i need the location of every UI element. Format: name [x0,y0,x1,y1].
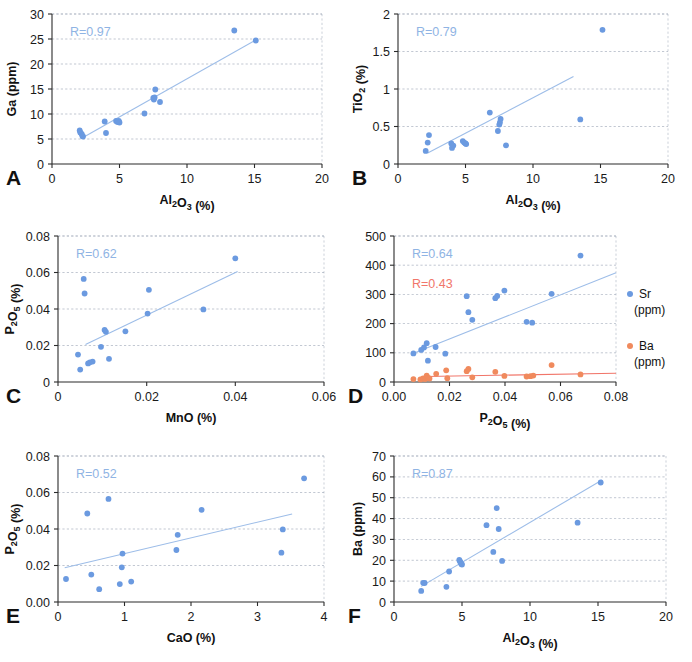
y-tick-label: 5 [37,133,44,147]
data-point [425,358,431,364]
x-tick-label: 0.08 [604,390,628,404]
data-point [575,520,581,526]
data-point [459,562,465,568]
y-tick-label: 40 [372,512,386,526]
y-axis-title: Ga (ppm) [5,62,19,117]
y-tick-label: 50 [372,491,386,505]
x-tick-label: 5 [459,610,466,624]
data-point [90,359,96,365]
x-tick-label: 15 [248,172,262,186]
y-tick-label: 200 [365,317,386,331]
legend-label: Sr [639,287,651,301]
data-point [77,367,83,373]
y-tick-label: 1.5 [373,45,390,59]
x-tick-label: 0 [395,172,402,186]
x-tick-label: 0.06 [312,390,336,404]
panel-e-plot: 0.000.020.040.060.0801234R=0.52CaO (%)P2… [0,440,346,662]
data-point [463,141,469,147]
y-axis-title: P2O5 (%) [3,283,23,334]
y-tick-label: 0.04 [26,523,50,537]
data-point [446,569,452,575]
data-point [549,362,555,368]
y-tick-label: 30 [372,533,386,547]
data-point [530,373,536,379]
data-point [81,276,87,282]
y-tick-label: 0.08 [26,450,50,464]
correlation-label: R=0.62 [76,247,117,261]
y-tick-label: 500 [365,230,386,244]
y-tick-label: 0 [383,158,390,172]
data-point [499,558,505,564]
y-axis-title: Ba (ppm) [351,502,365,556]
y-tick-label: 0.02 [26,339,50,353]
x-tick-label: 0.00 [382,390,406,404]
y-tick-label: 0 [37,158,44,172]
panel-letter-d: D [348,384,363,408]
x-tick-label: 15 [591,610,605,624]
x-axis-title: Al2O3 (%) [502,631,557,651]
data-point [466,309,472,315]
y-tick-label: 0.00 [26,596,50,610]
data-point [495,128,501,134]
panel-b-plot: 00.511.5205101520R=0.79Al2O3 (%)TiO2 (%) [346,0,692,220]
correlation-label: R=0.79 [416,25,457,39]
correlation-label: R=0.97 [70,25,111,39]
data-point [600,27,606,33]
data-point [549,291,555,297]
data-point [442,351,448,357]
y-tick-label: 15 [30,83,44,97]
data-point [84,511,90,517]
legend-marker [627,291,633,297]
x-tick-label: 10 [526,172,540,186]
x-tick-label: 0 [391,610,398,624]
data-point [450,143,456,149]
x-axis-title: Al2O3 (%) [505,193,560,213]
x-tick-label: 0.02 [437,390,461,404]
panel-f-plot: 01020304050607005101520R=0.87Al2O3 (%)Ba… [346,440,692,662]
correlation-label: R=0.87 [412,467,453,481]
x-tick-label: 20 [661,172,675,186]
data-point [75,352,81,358]
data-point [232,255,238,261]
y-tick-label: 0 [43,376,50,390]
data-point [598,480,604,486]
data-point [418,588,424,594]
y-tick-label: 0.02 [26,559,50,573]
panel-c: 00.020.040.060.0800.020.040.06R=0.62MnO … [0,220,346,440]
x-tick-label: 10 [180,172,194,186]
data-point [529,320,535,326]
x-tick-label: 0.04 [223,390,247,404]
data-point [466,366,472,372]
y-tick-label: 400 [365,259,386,273]
panel-a: 05101520253005101520R=0.97Al2O3 (%)Ga (p… [0,0,346,220]
data-point [152,87,158,93]
panel-b: 00.511.5205101520R=0.79Al2O3 (%)TiO2 (%)… [346,0,692,220]
legend-marker [627,343,633,349]
y-tick-label: 20 [30,58,44,72]
panel-letter-f: F [348,604,361,628]
panel-letter-e: E [6,604,20,628]
data-point [88,572,94,578]
x-tick-label: 20 [315,172,329,186]
panel-letter-b: B [352,166,367,190]
data-point [503,142,509,148]
data-point [157,99,163,105]
y-tick-label: 300 [365,288,386,302]
data-point [123,328,129,334]
legend-label-unit: (ppm) [634,355,665,369]
panel-f: 01020304050607005101520R=0.87Al2O3 (%)Ba… [346,440,692,662]
y-tick-label: 0.04 [26,303,50,317]
data-point [469,374,475,380]
data-point [253,38,259,44]
data-point [201,307,207,313]
data-point [433,344,439,350]
data-point [577,117,583,123]
data-point [117,120,123,126]
data-point [119,564,125,570]
x-axis-title: Al2O3 (%) [159,193,214,213]
data-point [502,373,508,379]
data-point [422,580,428,586]
data-point [98,344,104,350]
data-point [425,140,431,146]
data-point [427,376,433,382]
